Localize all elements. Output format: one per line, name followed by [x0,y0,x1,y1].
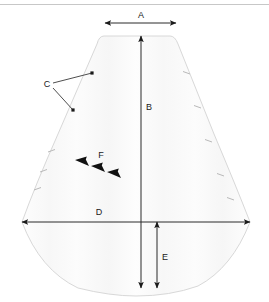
dimension-a: A [105,10,176,23]
callout-c-leader-dot [71,108,74,111]
callout-c-leader [53,88,73,110]
callout-c-leader-dot [90,71,93,74]
dimension-diagram: A B D E C F [0,0,269,302]
callout-c-label: C [44,79,51,89]
dimension-b-label: B [146,102,152,112]
callout-f-label: F [98,150,104,160]
dimension-a-label: A [138,10,144,20]
diagram-canvas: A B D E C F [0,0,269,302]
dimension-e-label: E [162,252,168,262]
cone-shape-outline [22,36,250,296]
dimension-d-label: D [96,207,103,217]
